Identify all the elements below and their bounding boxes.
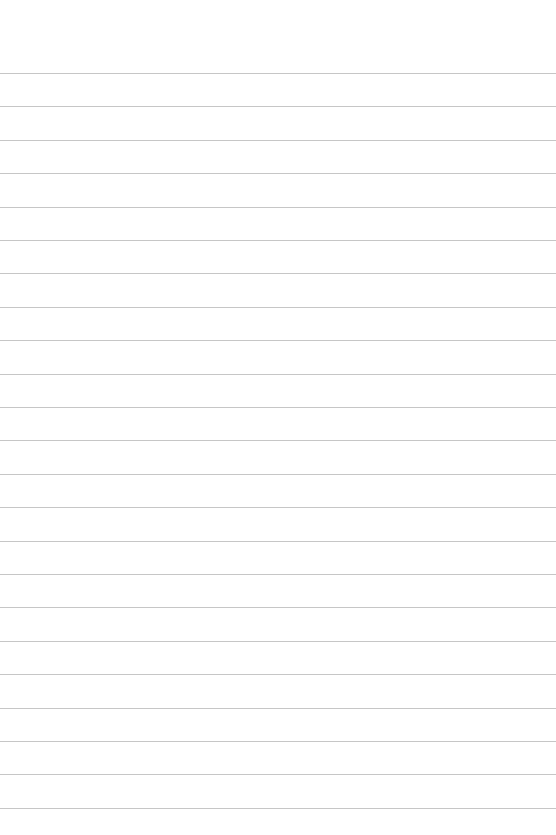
ruled-line xyxy=(0,708,556,709)
ruled-line xyxy=(0,808,556,809)
ruled-line xyxy=(0,674,556,675)
ruled-line xyxy=(0,240,556,241)
ruled-line xyxy=(0,474,556,475)
ruled-line xyxy=(0,374,556,375)
ruled-line xyxy=(0,574,556,575)
ruled-line xyxy=(0,73,556,74)
ruled-line xyxy=(0,507,556,508)
ruled-line xyxy=(0,641,556,642)
ruled-page xyxy=(0,0,556,835)
ruled-line xyxy=(0,207,556,208)
ruled-line xyxy=(0,106,556,107)
ruled-line xyxy=(0,741,556,742)
ruled-line xyxy=(0,273,556,274)
ruled-line xyxy=(0,407,556,408)
ruled-line xyxy=(0,140,556,141)
ruled-line xyxy=(0,541,556,542)
ruled-line xyxy=(0,774,556,775)
ruled-line xyxy=(0,307,556,308)
ruled-line xyxy=(0,340,556,341)
ruled-line xyxy=(0,440,556,441)
ruled-line xyxy=(0,173,556,174)
ruled-line xyxy=(0,607,556,608)
